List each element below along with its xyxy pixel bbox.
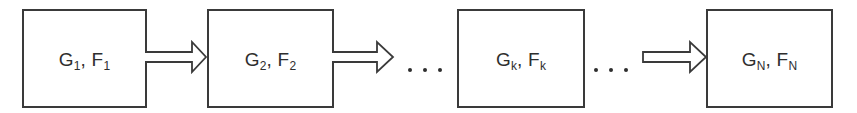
hollow-arrow-icon bbox=[643, 40, 707, 74]
stage-label-2: G2, F2 bbox=[245, 49, 297, 71]
stage-box-k: Gk, Fk bbox=[457, 9, 585, 108]
stage-label-k: Gk, Fk bbox=[496, 49, 546, 71]
hollow-arrow-icon bbox=[145, 40, 207, 74]
dot-icon bbox=[609, 68, 613, 72]
dot-icon bbox=[423, 68, 427, 72]
ellipsis-dots bbox=[594, 55, 639, 75]
dot-icon bbox=[594, 68, 598, 72]
stage-box-1: G1, F1 bbox=[22, 9, 147, 108]
ellipsis-dots bbox=[408, 55, 453, 75]
dot-icon bbox=[438, 68, 442, 72]
stage-box-2: G2, F2 bbox=[207, 9, 334, 108]
hollow-arrow-icon bbox=[332, 40, 394, 74]
dot-icon bbox=[408, 68, 412, 72]
dot-icon bbox=[624, 68, 628, 72]
stage-label-N: GN, FN bbox=[742, 49, 798, 71]
stage-box-N: GN, FN bbox=[706, 9, 833, 108]
stage-label-1: G1, F1 bbox=[59, 49, 111, 71]
